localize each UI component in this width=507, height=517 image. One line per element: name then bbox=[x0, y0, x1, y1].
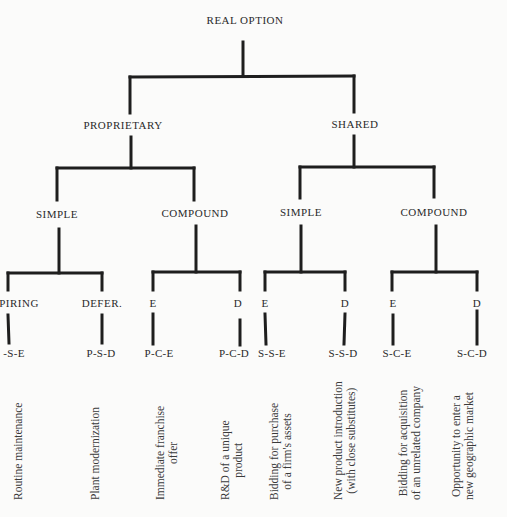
desc-immediate-franchise: Immediate franchise offer bbox=[154, 406, 180, 500]
node-sc-deferrable: D bbox=[473, 297, 481, 309]
code-ssd: S-S-D bbox=[328, 347, 357, 359]
code-scd: S-C-D bbox=[457, 347, 487, 359]
node-ss-expiring: E bbox=[261, 297, 268, 309]
node-shared-compound: COMPOUND bbox=[401, 206, 468, 218]
node-pc-expiring: E bbox=[149, 297, 156, 309]
desc-bidding-purchase: Bidding for purchase of a firm's assets bbox=[268, 403, 294, 500]
desc-geographic-market: Opportunity to enter a new geographic ma… bbox=[450, 392, 476, 500]
code-pce: P-C-E bbox=[145, 347, 174, 359]
code-pse: -S-E bbox=[3, 347, 24, 359]
node-shared: SHARED bbox=[331, 118, 378, 130]
desc-rd-unique-product: R&D of a unique product bbox=[219, 420, 245, 500]
code-sse: S-S-E bbox=[258, 347, 286, 359]
desc-routine-maintenance: Routine maintenance bbox=[12, 403, 25, 500]
node-deferrable: DEFER. bbox=[82, 297, 123, 309]
desc-plant-modernization: Plant modernization bbox=[89, 407, 102, 500]
code-sce: S-C-E bbox=[383, 347, 412, 359]
desc-bidding-acquisition: Bidding for acquisition of an unrelated … bbox=[397, 386, 423, 500]
code-psd: P-S-D bbox=[86, 347, 115, 359]
desc-new-product: New product introduction (with close sub… bbox=[332, 381, 358, 500]
tree-connectors bbox=[0, 0, 507, 517]
code-pcd: P-C-D bbox=[219, 347, 249, 359]
node-proprietary: PROPRIETARY bbox=[83, 119, 162, 131]
node-shared-simple: SIMPLE bbox=[280, 206, 322, 218]
node-proprietary-simple: SIMPLE bbox=[36, 208, 78, 220]
node-sc-expiring: E bbox=[389, 297, 396, 309]
node-ss-deferrable: D bbox=[341, 297, 349, 309]
node-real-option: REAL OPTION bbox=[207, 14, 284, 26]
node-proprietary-compound: COMPOUND bbox=[162, 207, 229, 219]
node-pc-deferrable: D bbox=[234, 297, 242, 309]
node-expiring: PIRING bbox=[0, 297, 39, 309]
